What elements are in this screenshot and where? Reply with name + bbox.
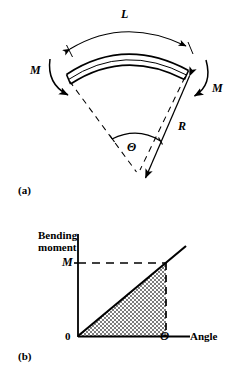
x-axis-label: Angle bbox=[190, 330, 218, 342]
y-tick-label-M: M bbox=[62, 255, 73, 270]
moment-label-right: M bbox=[212, 81, 223, 96]
x-tick-label-theta: Θ bbox=[160, 329, 169, 344]
moment-label-left: M bbox=[30, 63, 41, 78]
radius-label: R bbox=[178, 119, 186, 134]
panel-b-label: (b) bbox=[18, 350, 31, 362]
y-axis-label: Bending moment bbox=[38, 229, 102, 253]
radius-construction-lines bbox=[70, 77, 186, 172]
angle-label: Θ bbox=[127, 140, 136, 155]
moment-arrow-right bbox=[195, 60, 208, 96]
origin-label: 0 bbox=[65, 330, 71, 342]
panel-a-label: (a) bbox=[18, 184, 31, 196]
arc-length-label: L bbox=[121, 7, 128, 22]
figure-root: L R Θ M M (a) Bending moment bbox=[0, 0, 249, 381]
y-axis-label-line1: Bending bbox=[38, 229, 102, 241]
curved-beam bbox=[67, 54, 189, 84]
moment-arrow-left bbox=[50, 59, 68, 95]
arc-length-dimension-arrow bbox=[67, 32, 194, 57]
y-axis-label-line2: moment bbox=[38, 241, 102, 253]
